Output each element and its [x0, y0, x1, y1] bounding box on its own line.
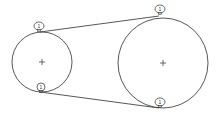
label-small-top: 1	[34, 22, 44, 32]
large-pulley	[118, 18, 208, 108]
label-text: 1	[159, 6, 162, 12]
label-text: 1	[40, 84, 43, 90]
label-large-top: 1	[155, 5, 165, 15]
lower-belt	[40, 92, 159, 108]
tangent-point-labels: 1111	[34, 5, 165, 108]
label-large-bottom: 1	[155, 98, 165, 108]
center-mark-icon	[39, 59, 45, 65]
label-small-bottom: 1	[37, 83, 45, 93]
belt-pulley-diagram: 1111	[0, 0, 222, 118]
label-text: 1	[159, 99, 162, 105]
belt-lines	[40, 16, 159, 108]
tangent-point-marker	[38, 30, 41, 32]
center-mark-icon	[160, 60, 166, 66]
label-text: 1	[38, 23, 41, 29]
